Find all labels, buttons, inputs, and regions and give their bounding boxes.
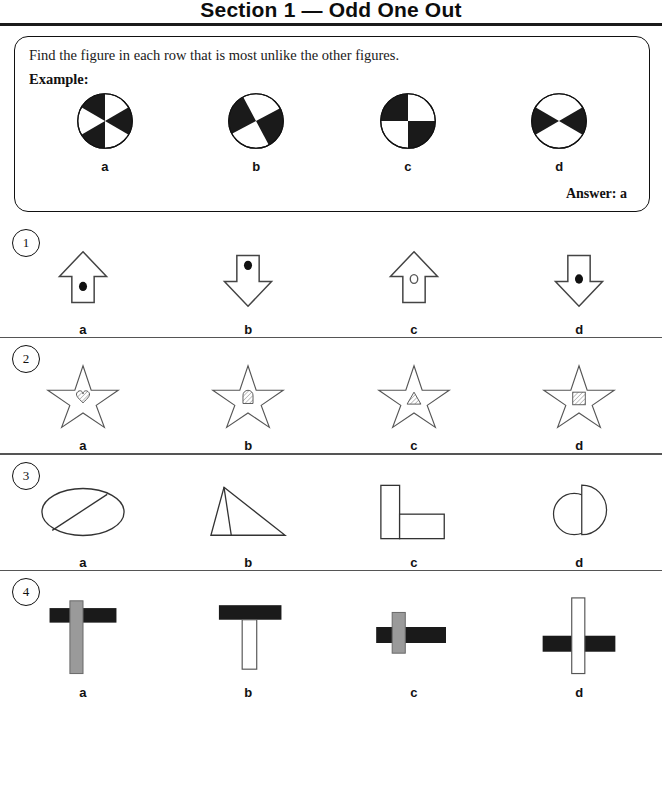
arrow-up-open-circle-icon (339, 246, 489, 312)
q2-option-c[interactable]: c (339, 362, 489, 453)
q1-option-b[interactable]: b (173, 246, 323, 337)
gray-vertical-bar-over-black-bar-icon (8, 595, 158, 675)
arrow-down-filled-dot-top-icon (173, 246, 323, 312)
page-title-text: Section 1 — Odd One Out (0, 0, 662, 20)
page-title: Section 1 — Odd One Out (0, 0, 662, 26)
option-letter: a (40, 159, 170, 174)
question-1-row: a b c (0, 230, 662, 337)
pie-4-sector-hourglass-icon (494, 90, 624, 152)
option-letter: c (339, 685, 489, 700)
question-3: 3 a b (0, 455, 662, 570)
example-option-a[interactable]: a (40, 90, 170, 174)
q2-option-b[interactable]: b (173, 362, 323, 453)
option-letter: c (343, 159, 473, 174)
question-4: 4 a b (0, 571, 662, 700)
white-vertical-bar-under-black-bar-icon (173, 595, 323, 675)
q3-option-d[interactable]: d (504, 479, 654, 570)
option-letter: a (8, 685, 158, 700)
gray-vertical-bar-short-over-black-bar-icon (339, 595, 489, 675)
option-letter: b (191, 159, 321, 174)
option-letter: d (504, 555, 654, 570)
star-with-hatched-triangle-icon (339, 362, 489, 428)
q3-option-a[interactable]: a (8, 479, 158, 570)
circle-with-semicircle-icon (504, 479, 654, 545)
question-2-row: a b (0, 346, 662, 453)
option-letter: c (339, 555, 489, 570)
example-option-b[interactable]: b (191, 90, 321, 174)
q4-option-d[interactable]: d (504, 595, 654, 700)
option-letter: d (504, 322, 654, 337)
option-letter: b (173, 438, 323, 453)
example-option-c[interactable]: c (343, 90, 473, 174)
example-label: Example: (29, 71, 635, 88)
question-number: 4 (12, 578, 40, 606)
question-1: 1 a b (0, 222, 662, 337)
star-with-hatched-square-icon (504, 362, 654, 428)
question-2: 2 a (0, 338, 662, 453)
triangle-with-inner-line-icon (173, 479, 323, 545)
arrow-down-filled-dot-icon (504, 246, 654, 312)
question-3-row: a b c (0, 463, 662, 570)
pie-4-sector-rotated-icon (191, 90, 321, 152)
white-vertical-bar-over-split-black-bar-icon (504, 595, 654, 675)
instruction-text: Find the figure in each row that is most… (29, 47, 635, 64)
option-letter: b (173, 685, 323, 700)
option-letter: a (8, 555, 158, 570)
q3-option-c[interactable]: c (339, 479, 489, 570)
q3-option-b[interactable]: b (173, 479, 323, 570)
title-divider (0, 23, 662, 26)
example-figure-row: a b (29, 90, 635, 174)
star-with-hatched-rounded-rect-icon (173, 362, 323, 428)
q4-option-b[interactable]: b (173, 595, 323, 700)
pie-6-sector-alternating-icon (40, 90, 170, 152)
question-number: 3 (12, 462, 40, 490)
two-rectangles-l-shape-icon (339, 479, 489, 545)
option-letter: a (8, 438, 158, 453)
q1-option-d[interactable]: d (504, 246, 654, 337)
q4-option-c[interactable]: c (339, 595, 489, 700)
question-4-row: a b c (0, 579, 662, 700)
option-letter: d (504, 438, 654, 453)
q2-option-d[interactable]: d (504, 362, 654, 453)
example-panel: Find the figure in each row that is most… (14, 36, 650, 212)
option-letter: b (173, 555, 323, 570)
option-letter: d (494, 159, 624, 174)
option-letter: c (339, 438, 489, 453)
option-letter: a (8, 322, 158, 337)
option-letter: d (504, 685, 654, 700)
q2-option-a[interactable]: a (8, 362, 158, 453)
q1-option-a[interactable]: a (8, 246, 158, 337)
example-answer: Answer: a (566, 186, 627, 202)
question-number: 1 (12, 229, 40, 257)
q4-option-a[interactable]: a (8, 595, 158, 700)
option-letter: c (339, 322, 489, 337)
q1-option-c[interactable]: c (339, 246, 489, 337)
pie-4-sector-upright-icon (343, 90, 473, 152)
example-option-d[interactable]: d (494, 90, 624, 174)
option-letter: b (173, 322, 323, 337)
